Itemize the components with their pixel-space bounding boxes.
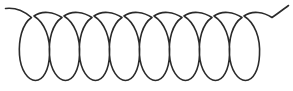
coil-spring-figure — [0, 0, 293, 91]
drawing-canvas — [0, 0, 293, 91]
